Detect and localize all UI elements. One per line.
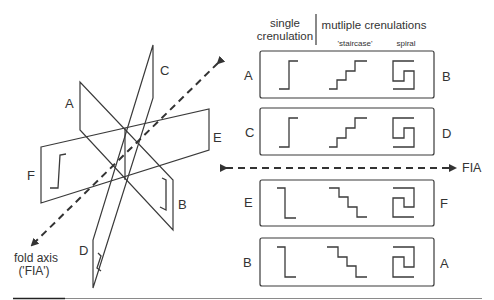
row-label-left: A [244,68,253,83]
header-single-line1: single [270,17,300,29]
fia-label: FIA [462,161,482,175]
single-crenulation-glyph [279,61,298,89]
label-plane-b: B [178,197,187,212]
header-spiral: spiral [396,39,415,48]
spiral-glyph [393,247,414,277]
row-label-right: F [440,196,448,211]
row-label-left: C [245,125,254,140]
header-staircase: 'staircase' [337,39,373,48]
row-box [260,51,434,98]
single-crenulation-glyph [279,118,298,147]
staircase-glyph [327,247,367,277]
glyph-plane-b [160,178,166,210]
row-label-right: A [440,256,449,271]
label-plane-c: C [160,63,169,78]
staircase-glyph [329,188,367,217]
label-plane-d: D [79,243,88,258]
fold-axis-abbrev: ('FIA') [18,264,49,278]
row-3: E F [244,180,448,226]
row-label-left: E [244,195,253,210]
label-plane-f: F [27,168,35,183]
spiral-glyph [393,188,414,217]
header-single-line2: crenulation [257,30,313,42]
label-plane-a: A [65,96,74,111]
label-plane-e: E [213,130,222,145]
row-4: B A [243,238,449,286]
spiral-glyph [393,118,414,147]
row-box [260,180,434,226]
spiral-glyph [393,61,414,89]
plane-ab [80,82,173,230]
header-multiple: mutliple crenulations [322,19,427,31]
single-crenulation-glyph [277,247,296,277]
row-label-right: B [442,69,451,84]
planes-3d [32,45,218,288]
row-label-left: B [243,255,252,270]
glyph-plane-f [50,154,66,188]
row-2: C D [245,108,451,155]
diagram-canvas: C A E F B D fold axis ('FIA') single cre… [0,0,494,300]
staircase-glyph [329,118,367,147]
staircase-glyph [329,61,367,89]
single-crenulation-glyph [277,188,296,218]
plane-cd [93,45,153,288]
fold-axis-label: fold axis [14,251,58,265]
row-1: A B [244,51,451,98]
row-label-right: D [442,126,451,141]
row-box [260,108,434,155]
